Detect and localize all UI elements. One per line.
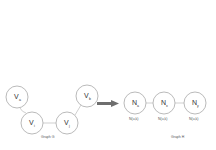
graph-g-node-va: V a	[6, 86, 28, 108]
graph-g-node-vj: V j	[56, 112, 78, 134]
graph-h-node-3: N y N(u,k)	[184, 92, 206, 121]
graph-g-node-vb: V b	[76, 85, 98, 107]
node-subscript: a	[19, 98, 21, 102]
graph-h-caption: Graph H	[171, 135, 185, 139]
graph-h-node-2: N x N(u,k)	[153, 92, 175, 121]
node-annotation: N(u,k)	[189, 117, 199, 121]
diagram-canvas: V a V i V j V b Graph G N a N(u,k) N x N…	[0, 0, 216, 150]
edge-vj-vb	[75, 105, 81, 115]
graph-g-node-vi: V i	[21, 112, 43, 134]
node-annotation: N(u,k)	[129, 117, 139, 121]
graph-h-node-1: N a N(u,k)	[124, 92, 146, 121]
node-subscript: x	[166, 104, 168, 108]
transform-arrow-icon	[97, 100, 119, 107]
node-subscript: a	[137, 104, 139, 108]
graph-g-caption: Graph G	[41, 135, 55, 139]
edge-va-vi	[20, 108, 26, 113]
node-subscript: b	[89, 97, 91, 101]
node-subscript: j	[68, 124, 70, 128]
node-annotation: N(u,k)	[158, 117, 168, 121]
node-subscript: y	[197, 104, 199, 108]
